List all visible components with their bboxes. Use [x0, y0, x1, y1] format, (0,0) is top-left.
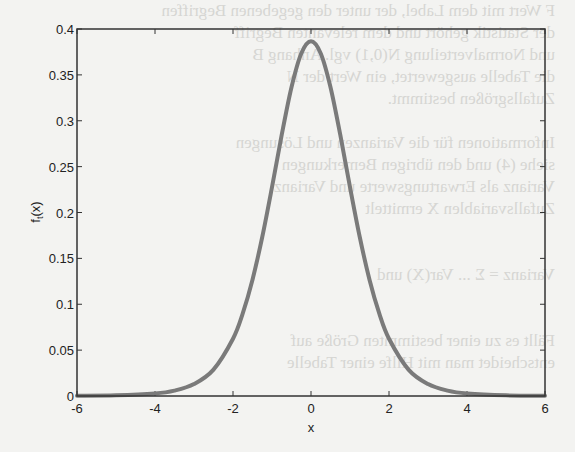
axes-frame: [77, 29, 545, 396]
y-tick-label: 0.35: [49, 68, 74, 83]
y-tick-label: 0.3: [56, 114, 74, 129]
y-tick-label: 0.2: [56, 206, 74, 221]
y-axis-label: ft(x): [28, 201, 45, 222]
x-tick-label: -6: [71, 401, 83, 416]
x-tick-label: -2: [227, 401, 239, 416]
y-tick-label: 0.25: [49, 160, 74, 175]
x-tick-label: 4: [463, 401, 470, 416]
y-tick-label: 0.4: [56, 22, 74, 37]
y-tick-label: 0.15: [49, 251, 74, 266]
density-plot: 00.050.10.150.20.250.30.350.4 -6-4-20246…: [0, 0, 575, 452]
x-tick-label: 2: [385, 401, 392, 416]
y-tick-label: 0.05: [49, 343, 74, 358]
y-tick-label: 0.1: [56, 297, 74, 312]
x-tick-label: -4: [149, 401, 161, 416]
x-axis-label: x: [308, 420, 315, 435]
x-tick-label: 0: [307, 401, 314, 416]
svg-text:ft(x): ft(x): [28, 201, 45, 222]
y-axis-ticks: 00.050.10.150.20.250.30.350.4: [49, 22, 545, 404]
x-axis-ticks: -6-4-20246: [71, 29, 548, 416]
x-tick-label: 6: [541, 401, 548, 416]
density-curve: [77, 41, 545, 396]
